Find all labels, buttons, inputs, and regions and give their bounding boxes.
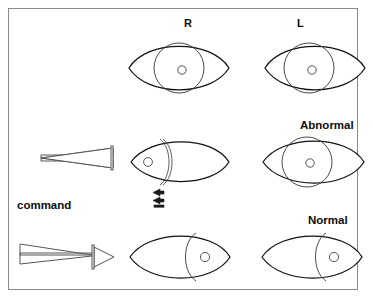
pupil-abnormal-right [144, 158, 153, 167]
pupil-normal-right [200, 252, 209, 261]
command-arrow-left [41, 146, 113, 170]
pupil-normal-left [329, 252, 338, 261]
diagram-artwork [0, 0, 372, 304]
eye-movement-diagram: R L Abnormal Normal command [0, 0, 372, 304]
pupil-abnormal-left [306, 159, 314, 167]
pupil-baseline-right [178, 66, 186, 74]
pupil-baseline-left [308, 66, 316, 74]
abnormal-marker-double-arrow [153, 189, 164, 207]
eye-baseline-left [265, 43, 365, 93]
eye-normal-left [262, 233, 362, 281]
eye-abnormal-left [263, 137, 364, 187]
command-arrow-right [20, 244, 114, 269]
eye-normal-right [130, 233, 230, 281]
eye-abnormal-right [131, 139, 229, 185]
eye-baseline-right [129, 43, 229, 93]
